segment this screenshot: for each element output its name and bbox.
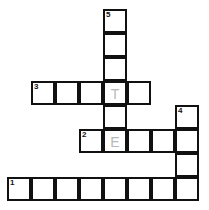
- clue-number: 2: [82, 131, 86, 139]
- crossword-cell[interactable]: [103, 57, 127, 81]
- cell-letter: T: [105, 85, 125, 103]
- crossword-cell[interactable]: 3: [31, 81, 55, 105]
- crossword-grid: 53T42E1: [0, 0, 209, 210]
- crossword-cell[interactable]: 5: [103, 9, 127, 33]
- crossword-cell[interactable]: 1: [7, 177, 31, 201]
- crossword-cell[interactable]: E: [103, 129, 127, 153]
- crossword-cell[interactable]: [103, 105, 127, 129]
- cell-letter: E: [105, 133, 125, 151]
- crossword-cell[interactable]: [127, 177, 151, 201]
- crossword-cell[interactable]: T: [103, 81, 127, 105]
- crossword-cell[interactable]: [127, 129, 151, 153]
- crossword-cell[interactable]: [79, 177, 103, 201]
- crossword-cell[interactable]: [175, 153, 199, 177]
- crossword-cell[interactable]: [55, 81, 79, 105]
- clue-number: 5: [106, 11, 110, 19]
- crossword-cell[interactable]: [103, 177, 127, 201]
- crossword-cell[interactable]: [151, 129, 175, 153]
- crossword-cell[interactable]: [175, 129, 199, 153]
- crossword-cell[interactable]: [79, 81, 103, 105]
- crossword-cell[interactable]: [151, 177, 175, 201]
- clue-number: 3: [34, 83, 38, 91]
- crossword-cell[interactable]: [175, 177, 199, 201]
- crossword-cell[interactable]: 2: [79, 129, 103, 153]
- clue-number: 4: [178, 107, 182, 115]
- crossword-cell[interactable]: [127, 81, 151, 105]
- crossword-cell[interactable]: [31, 177, 55, 201]
- crossword-cell[interactable]: [55, 177, 79, 201]
- crossword-cell[interactable]: [103, 33, 127, 57]
- clue-number: 1: [10, 179, 14, 187]
- crossword-cell[interactable]: 4: [175, 105, 199, 129]
